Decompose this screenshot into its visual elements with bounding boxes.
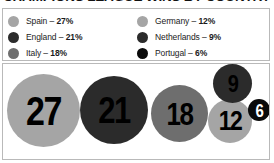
bubble-italy: 18 (151, 85, 208, 142)
legend-swatch-england (8, 32, 19, 43)
legend-percent-italy: 18% (50, 48, 67, 58)
legend-percent-england: 21% (66, 32, 83, 42)
legend-separator-italy: – (41, 48, 50, 58)
legend-separator-england: – (57, 32, 66, 42)
legend-percent-spain: 27% (56, 16, 73, 26)
legend-separator-portugal: – (186, 48, 195, 58)
legend-label-spain: Spain – 27% (26, 14, 73, 29)
legend-label-italy: Italy – 18% (26, 46, 67, 61)
legend-country-netherlands: Netherlands (155, 32, 200, 42)
legend-separator-netherlands: – (200, 32, 209, 42)
bubble-value-spain: 27 (26, 90, 61, 130)
legend-country-portugal: Portugal (155, 48, 186, 58)
legend-percent-germany: 12% (198, 16, 215, 26)
legend-panel: Spain – 27% England – 21% Italy – 18% (2, 8, 270, 61)
bubble-value-portugal: 6 (256, 101, 263, 119)
bubble-value-germany: 12 (219, 107, 242, 134)
legend-percent-portugal: 6% (195, 48, 207, 58)
bubble-chart-panel: 2721181296 (2, 63, 270, 160)
legend-swatch-netherlands (137, 32, 148, 43)
legend-country-germany: Germany (155, 16, 189, 26)
legend-label-germany: Germany – 12% (155, 14, 215, 29)
legend-label-portugal: Portugal – 6% (155, 46, 207, 61)
legend-percent-netherlands: 9% (209, 32, 221, 42)
legend-swatch-portugal (137, 48, 148, 59)
bubble-portugal: 6 (248, 99, 270, 121)
bubble-value-netherlands: 9 (228, 72, 238, 96)
bubble-netherlands: 9 (213, 64, 252, 103)
bubble-value-italy: 18 (167, 98, 193, 129)
legend-swatch-spain (8, 16, 19, 27)
legend-label-netherlands: Netherlands – 9% (155, 30, 221, 45)
bubble-value-england: 21 (98, 92, 129, 129)
infographic-root: CHAMPIONS LEAGUE WINS BY COUNTRY Spain –… (0, 0, 274, 163)
legend-country-italy: Italy (26, 48, 41, 58)
page-title: CHAMPIONS LEAGUE WINS BY COUNTRY (3, 0, 271, 5)
legend-country-spain: Spain (26, 16, 47, 26)
legend-label-england: England – 21% (26, 30, 82, 45)
legend-country-england: England (26, 32, 57, 42)
legend-swatch-germany (137, 16, 148, 27)
legend-swatch-italy (8, 48, 19, 59)
bubble-germany: 12 (208, 99, 252, 143)
bubble-spain: 27 (7, 74, 80, 147)
bubble-england: 21 (80, 76, 148, 144)
